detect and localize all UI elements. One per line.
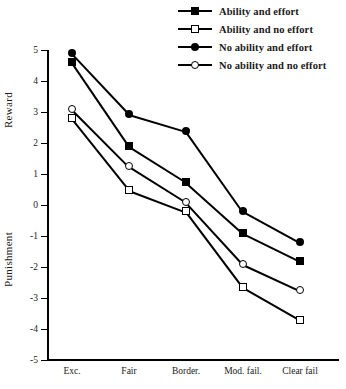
series-line-segment <box>185 211 243 288</box>
line-chart: 543210-1-2-3-4-5 Exc.FairBorder.Mod. fai… <box>0 0 346 389</box>
series-line-segment <box>71 109 129 167</box>
data-point <box>239 260 247 268</box>
data-point <box>68 105 76 113</box>
data-point <box>296 316 304 324</box>
series-line-segment <box>129 166 187 203</box>
data-point <box>239 283 247 291</box>
series-line-segment <box>129 190 187 213</box>
series-layer <box>0 0 346 389</box>
data-point <box>68 58 76 66</box>
data-point <box>182 198 190 206</box>
data-point <box>239 229 247 237</box>
data-point <box>296 238 304 246</box>
data-point <box>182 207 190 215</box>
data-point <box>296 257 304 265</box>
data-point <box>296 286 304 294</box>
series-line-segment <box>185 182 243 234</box>
data-point <box>125 186 133 194</box>
data-point <box>182 127 190 135</box>
data-point <box>68 49 76 57</box>
data-point <box>68 114 76 122</box>
data-point <box>125 142 133 150</box>
data-point <box>182 178 190 186</box>
series-line-segment <box>243 287 301 321</box>
series-line-segment <box>129 146 187 183</box>
series-line-segment <box>185 202 243 265</box>
series-line-segment <box>71 118 129 190</box>
data-point <box>125 110 133 118</box>
data-point <box>239 207 247 215</box>
data-point <box>125 162 133 170</box>
series-line-segment <box>243 264 301 292</box>
series-line-segment <box>129 114 186 132</box>
series-line-segment <box>185 131 243 212</box>
